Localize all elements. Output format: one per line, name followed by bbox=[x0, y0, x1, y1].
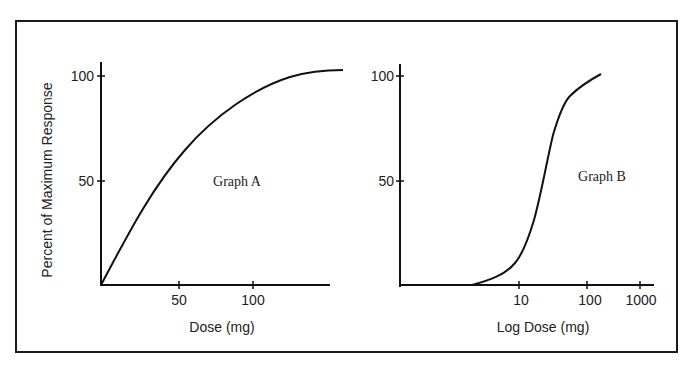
graph-a-y-tick-label-50: 50 bbox=[78, 173, 94, 189]
graph-b-x-tick-label-100: 100 bbox=[578, 292, 602, 308]
graph-b-y-tick-label-50: 50 bbox=[378, 173, 394, 189]
graph-a-x-tick-label-50: 50 bbox=[171, 292, 187, 308]
graph-a-label: Graph A bbox=[213, 174, 262, 189]
graph-a-x-tick-label-100: 100 bbox=[241, 292, 265, 308]
graph-a-x-axis-label: Dose (mg) bbox=[189, 319, 254, 335]
graph-b: 100 50 10 100 1000 Log Dose (mg) Graph B bbox=[371, 64, 657, 335]
graph-a-y-tick-label-100: 100 bbox=[71, 68, 95, 84]
graph-b-y-tick-label-100: 100 bbox=[371, 68, 395, 84]
graph-b-x-tick-label-1000: 1000 bbox=[625, 292, 656, 308]
graph-b-x-axis-label: Log Dose (mg) bbox=[497, 319, 590, 335]
graph-a: 100 50 50 100 Dose (mg) Percent of Maxim… bbox=[39, 62, 343, 335]
graph-b-x-tick-label-10: 10 bbox=[513, 292, 529, 308]
y-axis-label: Percent of Maximum Response bbox=[39, 82, 55, 278]
graph-b-label: Graph B bbox=[578, 169, 626, 184]
dose-response-figure: 100 50 50 100 Dose (mg) Percent of Maxim… bbox=[0, 0, 694, 365]
